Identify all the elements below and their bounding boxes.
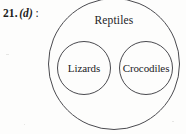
- question-colon: :: [35, 7, 38, 19]
- scan-artifact: [24, 124, 25, 125]
- inner-set-crocodiles: Crocodiles: [119, 41, 173, 95]
- question-label: 21.(d):: [3, 7, 39, 20]
- figure-panel: 21.(d): Reptiles Lizards Crocodiles: [0, 0, 186, 134]
- question-option: (d): [19, 7, 33, 19]
- inner-set-label-lizards: Lizards: [54, 62, 114, 74]
- question-number: 21.: [3, 7, 18, 19]
- scan-artifact: [6, 54, 9, 55]
- inner-set-lizards: Lizards: [57, 41, 111, 95]
- scan-artifact: [172, 121, 174, 122]
- euler-diagram: Reptiles Lizards Crocodiles: [48, 0, 184, 134]
- inner-set-label-crocodiles: Crocodiles: [116, 62, 176, 74]
- outer-set-label: Reptiles: [48, 14, 180, 27]
